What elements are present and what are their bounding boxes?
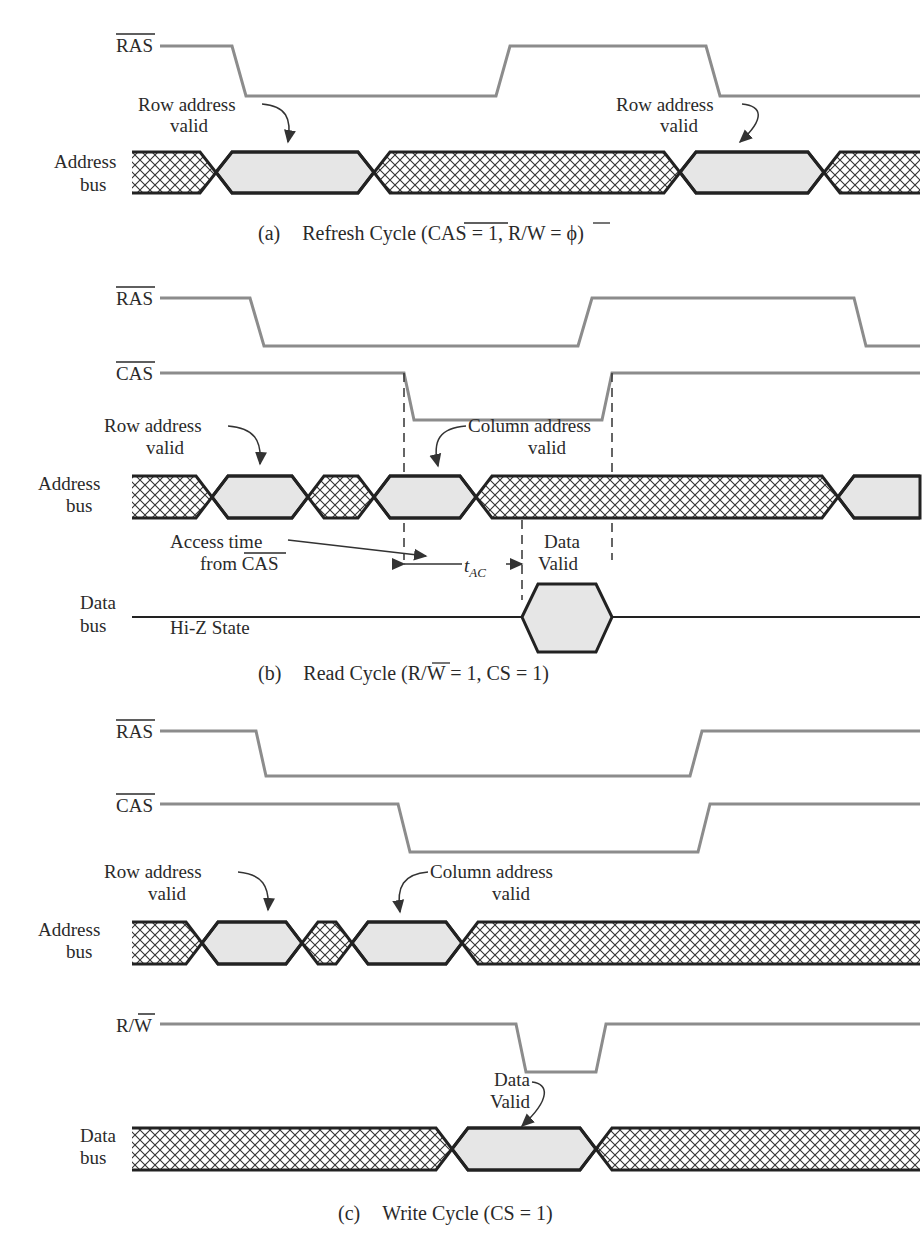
panel-a-refresh-cycle: RAS Row address valid Row address valid … bbox=[54, 34, 920, 245]
column-address-label: Column address bbox=[468, 415, 591, 436]
ras-label: RAS bbox=[116, 288, 153, 309]
data-bus-label: Data bbox=[80, 1125, 116, 1146]
address-bus-label: Address bbox=[38, 919, 100, 940]
address-bus-waveform bbox=[132, 922, 920, 964]
ras-waveform bbox=[160, 46, 920, 96]
hi-z-state-label: Hi-Z State bbox=[170, 617, 250, 638]
address-bus-label: Address bbox=[54, 151, 116, 172]
address-bus-label-2: bus bbox=[80, 174, 106, 195]
cas-label: CAS bbox=[116, 795, 153, 816]
data-valid-label-2: Valid bbox=[490, 1091, 531, 1112]
data-bus-label-2: bus bbox=[80, 1147, 106, 1168]
arrow-icon bbox=[436, 426, 466, 466]
address-bus-waveform bbox=[132, 152, 920, 193]
cas-waveform bbox=[160, 804, 920, 852]
cas-label: CAS bbox=[116, 363, 153, 384]
ras-waveform bbox=[160, 298, 920, 346]
access-time-label: Access time bbox=[170, 531, 262, 552]
caption-c: (c)Write Cycle (CS = 1) bbox=[338, 1202, 553, 1225]
address-bus-label: Address bbox=[38, 473, 100, 494]
column-address-valid-label: valid bbox=[492, 883, 530, 904]
row-address-valid-label: valid bbox=[170, 115, 208, 136]
caption-a: (a)Refresh Cycle (CAS = 1, R/W = ϕ) bbox=[258, 222, 584, 245]
arrow-icon bbox=[262, 104, 289, 142]
panel-c-write-cycle: RAS CAS Row address valid Column address… bbox=[38, 720, 920, 1225]
row-address-valid-label: valid bbox=[146, 437, 184, 458]
panel-b-read-cycle: RAS CAS Row address valid Column address… bbox=[38, 287, 920, 685]
row-address-valid-label: valid bbox=[148, 883, 186, 904]
dram-timing-diagram: RAS Row address valid Row address valid … bbox=[0, 0, 923, 1252]
data-valid-label-2: Valid bbox=[538, 553, 579, 574]
rw-waveform bbox=[160, 1024, 920, 1072]
column-address-label: Column address bbox=[430, 861, 553, 882]
address-bus-label-2: bus bbox=[66, 495, 92, 516]
data-bus-waveform bbox=[132, 584, 920, 652]
data-valid-label: Data bbox=[494, 1069, 530, 1090]
row-address-label: Row address bbox=[104, 415, 202, 436]
data-bus-label: Data bbox=[80, 592, 116, 613]
arrow-icon bbox=[228, 426, 260, 464]
address-bus-waveform bbox=[132, 476, 920, 518]
cas-waveform bbox=[160, 373, 920, 420]
arrow-icon bbox=[288, 540, 426, 556]
tac-label: tAC bbox=[464, 555, 486, 580]
arrow-icon bbox=[740, 104, 758, 142]
column-address-valid-label: valid bbox=[528, 437, 566, 458]
ras-label: RAS bbox=[116, 721, 153, 742]
data-bus-label-2: bus bbox=[80, 615, 106, 636]
access-time-from-label: from CAS bbox=[200, 553, 279, 574]
ras-waveform bbox=[160, 731, 920, 776]
row-address-label: Row address bbox=[104, 861, 202, 882]
row-address-label: Row address bbox=[138, 94, 236, 115]
data-valid-label: Data bbox=[544, 531, 580, 552]
row-address-valid-label-2: valid bbox=[660, 115, 698, 136]
ras-label: RAS bbox=[116, 35, 153, 56]
data-bus-waveform bbox=[132, 1128, 920, 1170]
row-address-label-2: Row address bbox=[616, 94, 714, 115]
arrow-icon bbox=[238, 872, 268, 910]
address-bus-label-2: bus bbox=[66, 941, 92, 962]
rw-label: R/W bbox=[116, 1015, 152, 1036]
arrow-icon bbox=[399, 872, 428, 912]
caption-b: (b)Read Cycle (R/W = 1, CS = 1) bbox=[258, 662, 549, 685]
